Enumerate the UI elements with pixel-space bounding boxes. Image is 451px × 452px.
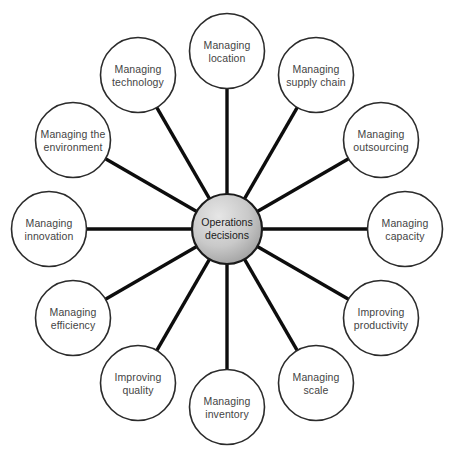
node-circle-managing-location[interactable] — [190, 14, 265, 89]
spoke-line-managing-the-environment — [105, 158, 198, 212]
spoke-line-managing-supply-chain — [244, 107, 298, 200]
node-circle-managing-efficiency[interactable] — [36, 281, 111, 356]
spoke-line-improving-quality — [156, 258, 210, 351]
node-circle-managing-technology[interactable] — [101, 38, 176, 113]
spoke-line-managing-technology — [156, 107, 210, 200]
node-circle-managing-innovation[interactable] — [12, 192, 87, 267]
spoke-line-managing-scale — [244, 258, 298, 351]
spoke-line-managing-efficiency — [105, 246, 198, 300]
spoke-line-managing-outsourcing — [256, 158, 349, 212]
node-circle-managing-inventory[interactable] — [190, 370, 265, 445]
node-circle-improving-quality[interactable] — [101, 346, 176, 421]
node-circle-managing-supply-chain[interactable] — [279, 38, 354, 113]
spoke-line-improving-productivity — [256, 246, 349, 300]
node-circle-managing-the-environment[interactable] — [36, 103, 111, 178]
node-circle-managing-outsourcing[interactable] — [344, 103, 419, 178]
node-circle-improving-productivity[interactable] — [344, 281, 419, 356]
node-circle-managing-scale[interactable] — [279, 346, 354, 421]
center-hub-circle — [192, 194, 262, 264]
diagram-canvas — [0, 0, 451, 452]
operations-decisions-diagram: Managing locationManaging supply chainMa… — [0, 0, 451, 452]
node-circle-managing-capacity[interactable] — [368, 192, 443, 267]
